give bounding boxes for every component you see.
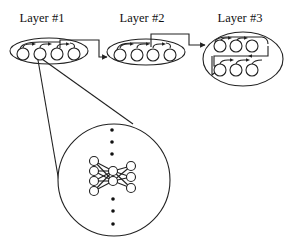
subnet-output-node [127, 184, 136, 193]
subnet-input-node [90, 157, 99, 166]
layer-2-node [147, 49, 159, 61]
zoom-inset [58, 124, 170, 236]
layer-1-node [51, 48, 63, 60]
layer-2-node [114, 49, 126, 61]
ellipsis-dot [111, 222, 115, 226]
layer-3-node [230, 64, 242, 76]
subnet-output-node [127, 162, 136, 171]
subnet-hidden-node [109, 177, 118, 186]
layer-2-label: Layer #2 [120, 11, 165, 25]
subnet-hidden-node [109, 167, 118, 176]
layer-2-node [164, 49, 176, 61]
layer-1-label: Layer #1 [20, 11, 65, 25]
layer-3-node [214, 64, 226, 76]
layer-3-node [230, 40, 242, 52]
diagram-canvas: Layer #1 Layer #2 Layer #3 [0, 0, 286, 245]
zoom-line-right [42, 59, 133, 124]
layer-3 [203, 32, 283, 86]
layer-3-label: Layer #3 [218, 11, 263, 25]
layer-3-node [246, 40, 258, 52]
layer-2-node [131, 49, 143, 61]
subnet-output-node [127, 173, 136, 182]
ellipsis-dot [110, 152, 114, 156]
layer-1 [10, 38, 88, 64]
ellipsis-dot [110, 128, 114, 132]
ellipsis-dot [111, 197, 115, 201]
ellipsis-dot [111, 209, 115, 213]
subnet-input-node [90, 177, 99, 186]
layer-2 [107, 39, 185, 65]
layer-3-node [214, 40, 226, 52]
connector-layer1-to-layer2 [60, 40, 107, 57]
layer-1-node [17, 48, 29, 60]
layer-3-node [246, 64, 258, 76]
layer-1-node [34, 48, 46, 60]
layer-1-node [68, 48, 80, 60]
subnet-input-node [90, 187, 99, 196]
ellipsis-dot [110, 140, 114, 144]
zoom-line-left [38, 60, 59, 182]
subnet-input-node [90, 167, 99, 176]
